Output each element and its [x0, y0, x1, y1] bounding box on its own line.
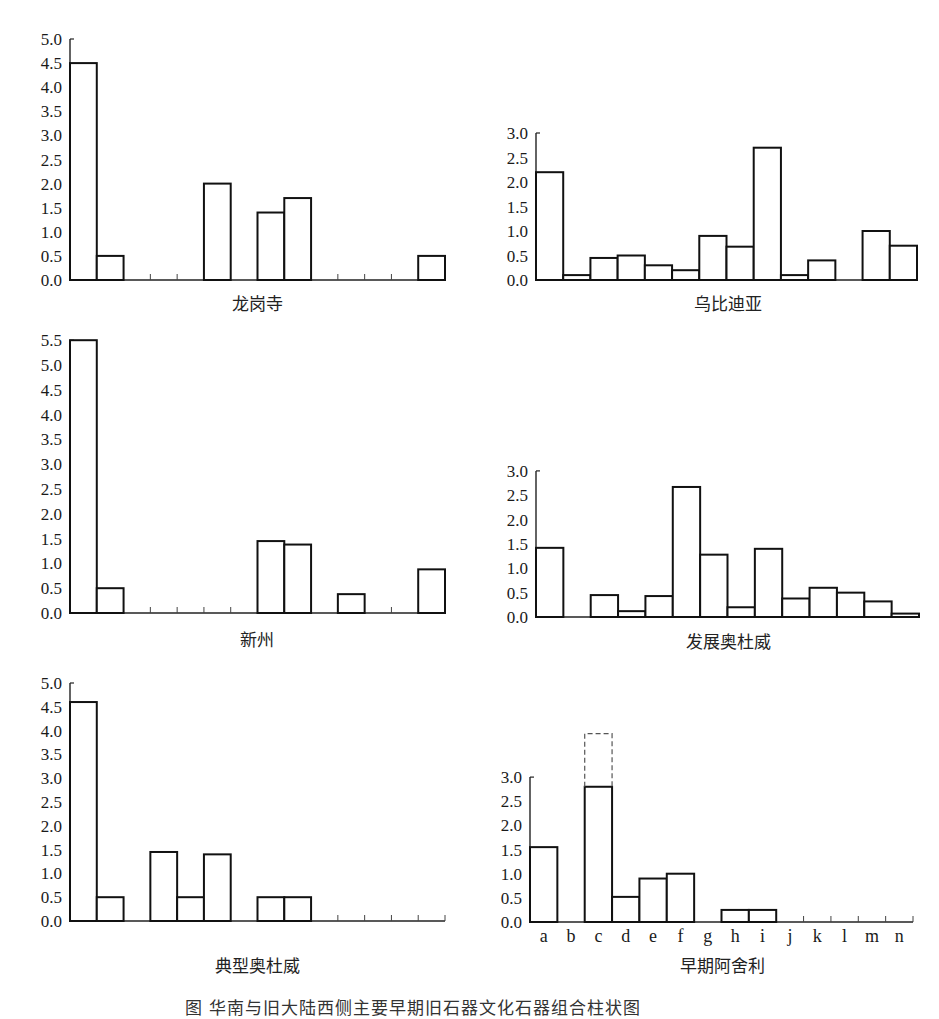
bar-c [585, 787, 612, 922]
bar-h [722, 910, 749, 922]
x-category-label: h [731, 926, 740, 946]
y-tick-label: 1.0 [501, 865, 522, 884]
x-category-label: n [895, 926, 904, 946]
x-category-label: d [621, 926, 630, 946]
chart-title: 早期阿舍利 [680, 952, 765, 977]
y-tick-label: 0.5 [501, 889, 522, 908]
bar-e [639, 879, 666, 922]
y-tick-label: 0.0 [501, 913, 522, 932]
dashed-extension [585, 734, 612, 787]
bar-a [530, 847, 557, 922]
y-tick-label: 3.0 [501, 768, 522, 787]
x-category-label: l [842, 926, 847, 946]
y-tick-label: 1.5 [501, 841, 522, 860]
y-tick-label: 2.5 [501, 792, 522, 811]
x-category-label: g [703, 926, 712, 946]
x-category-label: j [786, 926, 792, 946]
x-category-label: k [813, 926, 822, 946]
x-category-label: a [540, 926, 548, 946]
bar-f [667, 874, 694, 922]
bar-i [749, 910, 776, 922]
x-category-label: m [865, 926, 879, 946]
y-tick-label: 2.0 [501, 816, 522, 835]
bar-d [612, 897, 639, 922]
x-category-label: e [649, 926, 657, 946]
x-category-label: f [677, 926, 683, 946]
figure-caption: 图 华南与旧大陆西侧主要早期旧石器文化石器组合柱状图 [185, 994, 641, 1019]
x-category-label: c [594, 926, 602, 946]
x-category-label: i [760, 926, 765, 946]
x-category-label: b [567, 926, 576, 946]
